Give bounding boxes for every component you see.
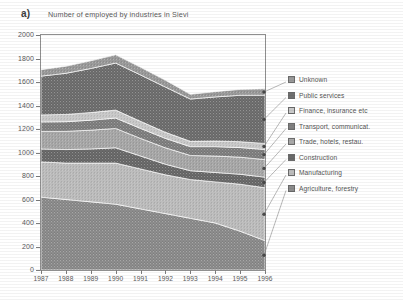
stacked-area-series xyxy=(41,35,265,270)
x-tick-mark xyxy=(165,270,166,274)
y-tick-mark xyxy=(36,176,40,177)
y-tick-mark xyxy=(36,35,40,36)
legend-leader-line xyxy=(264,82,286,92)
legend-item[interactable]: Transport, communicat. xyxy=(288,121,370,132)
legend-item[interactable]: Construction xyxy=(288,152,337,163)
legend-item-label: Agriculture, forestry xyxy=(299,185,358,192)
y-tick-label: 800 xyxy=(8,172,34,179)
x-tick-mark xyxy=(141,270,142,274)
y-tick-label: 2000 xyxy=(8,31,34,38)
legend-swatch-icon xyxy=(288,107,295,114)
x-tick-label: 1990 xyxy=(104,275,128,282)
y-tick-mark xyxy=(36,82,40,83)
legend-item[interactable]: Manufacturing xyxy=(288,167,342,178)
legend-item-label: Transport, communicat. xyxy=(299,123,370,130)
legend-item[interactable]: Finance, insurance etc xyxy=(288,105,368,116)
legend-leader-line xyxy=(264,144,286,168)
legend-item-label: Public services xyxy=(299,92,344,99)
legend-item-label: Construction xyxy=(299,154,337,161)
x-tick-label: 1996 xyxy=(253,275,277,282)
plot-area xyxy=(40,34,266,271)
legend-item[interactable]: Trade, hotels, restau. xyxy=(288,136,363,147)
x-tick-mark xyxy=(91,270,92,274)
y-tick-mark xyxy=(36,59,40,60)
y-tick-label: 1400 xyxy=(8,102,34,109)
x-tick-mark xyxy=(240,270,241,274)
y-tick-mark xyxy=(36,129,40,130)
y-tick-mark xyxy=(36,270,40,271)
x-tick-label: 1991 xyxy=(129,275,153,282)
x-tick-label: 1994 xyxy=(203,275,227,282)
legend-leader-line xyxy=(264,113,286,147)
chart-title: Number of employed by industries in Siev… xyxy=(48,10,188,19)
legend-leader-line xyxy=(264,160,286,183)
y-tick-mark xyxy=(36,106,40,107)
legend-item-label: Manufacturing xyxy=(299,169,342,176)
legend-swatch-icon xyxy=(288,138,295,145)
legend-item[interactable]: Unknown xyxy=(288,74,327,85)
x-tick-mark xyxy=(116,270,117,274)
y-tick-mark xyxy=(36,153,40,154)
legend-swatch-icon xyxy=(288,76,295,83)
x-tick-label: 1987 xyxy=(29,275,53,282)
legend-leader-line xyxy=(264,191,286,256)
y-tick-label: 0 xyxy=(8,266,34,273)
legend-swatch-icon xyxy=(288,169,295,176)
y-tick-label: 1000 xyxy=(8,149,34,156)
y-tick-label: 1200 xyxy=(8,125,34,132)
legend-leader-line xyxy=(264,129,286,155)
legend-item[interactable]: Public services xyxy=(288,90,344,101)
y-tick-label: 600 xyxy=(8,196,34,203)
y-tick-mark xyxy=(36,200,40,201)
x-tick-label: 1992 xyxy=(153,275,177,282)
x-tick-mark xyxy=(265,270,266,274)
legend-leader-line xyxy=(264,98,286,120)
figure-panel: a) Number of employed by industries in S… xyxy=(0,0,403,300)
panel-label: a) xyxy=(21,8,30,19)
y-tick-mark xyxy=(36,247,40,248)
legend-item[interactable]: Agriculture, forestry xyxy=(288,183,358,194)
legend-item-label: Unknown xyxy=(299,76,327,83)
y-tick-label: 1800 xyxy=(8,55,34,62)
legend-swatch-icon xyxy=(288,92,295,99)
x-tick-mark xyxy=(66,270,67,274)
legend-item-label: Trade, hotels, restau. xyxy=(299,138,363,145)
y-tick-label: 400 xyxy=(8,219,34,226)
legend-leader-line xyxy=(264,175,286,214)
x-tick-mark xyxy=(41,270,42,274)
x-tick-label: 1993 xyxy=(178,275,202,282)
legend-swatch-icon xyxy=(288,154,295,161)
y-tick-label: 200 xyxy=(8,243,34,250)
y-tick-mark xyxy=(36,223,40,224)
x-tick-mark xyxy=(215,270,216,274)
x-tick-mark xyxy=(190,270,191,274)
legend-item-label: Finance, insurance etc xyxy=(299,107,368,114)
x-tick-label: 1995 xyxy=(228,275,252,282)
x-tick-label: 1988 xyxy=(54,275,78,282)
y-tick-label: 1600 xyxy=(8,78,34,85)
legend-swatch-icon xyxy=(288,185,295,192)
x-tick-label: 1989 xyxy=(79,275,103,282)
legend-swatch-icon xyxy=(288,123,295,130)
